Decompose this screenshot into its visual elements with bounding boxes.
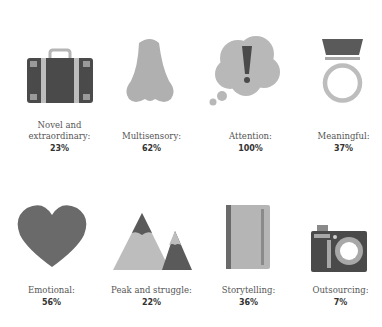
suitcase-icon <box>26 48 94 106</box>
mountains-icon <box>112 213 192 271</box>
item-label: Outsourcing: <box>312 285 368 295</box>
item-label: Emotional: <box>28 285 75 295</box>
item-meaningful: Meaningful: 37% <box>296 131 382 154</box>
item-attention: Attention: 100% <box>203 131 298 154</box>
camera-icon <box>311 225 367 272</box>
heart-icon <box>17 203 87 269</box>
item-value: 22% <box>104 297 199 308</box>
item-value: 56% <box>4 297 99 308</box>
item-label: Attention: <box>229 131 272 141</box>
item-label-line1: Novel and <box>38 120 82 130</box>
item-value: 100% <box>203 143 298 154</box>
item-value: 37% <box>296 143 382 154</box>
thought-bubble-exclamation-icon <box>208 28 286 106</box>
book-icon <box>226 205 270 271</box>
item-label: Multisensory: <box>122 131 181 141</box>
item-peak-and-struggle: Peak and struggle: 22% <box>104 285 199 308</box>
item-emotional: Emotional: 56% <box>4 285 99 308</box>
ring-icon <box>320 37 365 107</box>
item-value: 7% <box>293 297 382 308</box>
item-storytelling: Storytelling: 36% <box>201 285 296 308</box>
item-multisensory: Multisensory: 62% <box>104 131 199 154</box>
item-value: 62% <box>104 143 199 154</box>
item-novel-and-extraordinary: Novel and extraordinary: 23% <box>12 120 107 154</box>
item-label: Storytelling: <box>222 285 276 295</box>
item-label: Peak and struggle: <box>111 285 192 295</box>
item-label-line2: extraordinary: <box>29 131 91 141</box>
item-value: 23% <box>12 143 107 154</box>
nose-icon <box>125 37 175 105</box>
item-value: 36% <box>201 297 296 308</box>
item-label: Meaningful: <box>317 131 369 141</box>
item-outsourcing: Outsourcing: 7% <box>293 285 382 308</box>
